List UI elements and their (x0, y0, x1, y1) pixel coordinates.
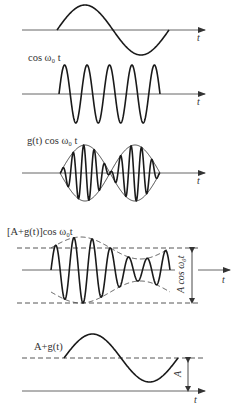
panel-label: [A+g(t)]cos ω₀t (7, 226, 73, 238)
axis-label-t: t (197, 175, 200, 186)
modulation-diagram: t cos ω₀ t t g(t) cos ω₀ t t [A+g(t)]cos… (0, 0, 234, 413)
axis-label-t: t (197, 32, 200, 43)
panel-dsb: g(t) cos ω₀ t t (22, 135, 205, 201)
panel-am: [A+g(t)]cos ω₀t A cos ω₀t t (7, 226, 230, 303)
panel-label: cos ω₀ t (28, 52, 61, 63)
axis-label-t: t (197, 96, 200, 107)
dc-annotation: A (172, 370, 183, 378)
panel-envelope: A+g(t) A t (22, 334, 205, 405)
axis-label-t: t (194, 394, 197, 405)
panel-message: t (22, 5, 205, 55)
panel-label: g(t) cos ω₀ t (27, 135, 78, 147)
axis-label-t: t (222, 274, 225, 285)
panel-label: A+g(t) (34, 341, 63, 353)
panel-carrier: cos ω₀ t t (22, 52, 205, 123)
dsb-curve (60, 145, 160, 201)
amplitude-annotation: A cos ω₀t (175, 255, 186, 294)
